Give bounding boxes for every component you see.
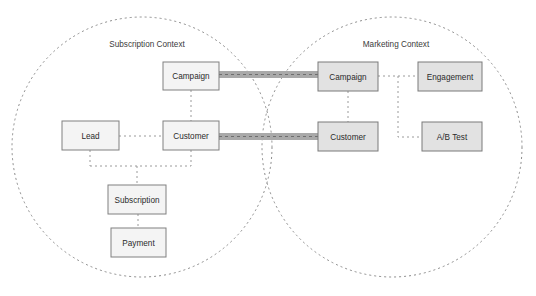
context-map-diagram: Subscription Context Marketing Context C… bbox=[0, 0, 536, 296]
context-label-marketing: Marketing Context bbox=[363, 40, 430, 49]
node-subscription-lead[interactable]: Lead bbox=[62, 121, 119, 150]
context-labels: Subscription Context Marketing Context bbox=[109, 40, 430, 49]
node-label: Subscription bbox=[114, 196, 160, 205]
node-label: Campaign bbox=[172, 72, 210, 81]
node-label: Lead bbox=[81, 132, 100, 141]
node-marketing-customer[interactable]: Customer bbox=[318, 122, 378, 151]
node-subscription-campaign[interactable]: Campaign bbox=[163, 62, 219, 90]
node-label: Payment bbox=[122, 239, 155, 248]
node-subscription-payment[interactable]: Payment bbox=[111, 228, 166, 257]
node-marketing-campaign[interactable]: Campaign bbox=[318, 62, 378, 91]
context-circle-marketing[interactable] bbox=[262, 17, 522, 277]
node-label: Customer bbox=[173, 132, 209, 141]
node-label: Campaign bbox=[329, 73, 367, 82]
node-marketing-engagement[interactable]: Engagement bbox=[418, 62, 482, 91]
node-label: Engagement bbox=[427, 73, 474, 82]
context-label-subscription: Subscription Context bbox=[109, 40, 185, 49]
diagram-canvas: Subscription Context Marketing Context C… bbox=[0, 0, 536, 296]
node-marketing-abtest[interactable]: A/B Test bbox=[422, 122, 482, 151]
node-label: A/B Test bbox=[437, 133, 468, 142]
node-subscription-subscription[interactable]: Subscription bbox=[108, 185, 166, 214]
node-subscription-customer[interactable]: Customer bbox=[163, 121, 219, 150]
node-label: Customer bbox=[330, 133, 366, 142]
